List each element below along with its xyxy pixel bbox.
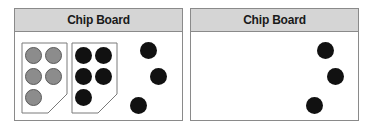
chip-board-panel-left: Chip Board bbox=[14, 8, 183, 121]
panel-title: Chip Board bbox=[243, 13, 306, 27]
black-chip bbox=[75, 89, 92, 106]
black-chip bbox=[75, 47, 92, 64]
gray-chip bbox=[45, 47, 62, 64]
black-chip bbox=[95, 68, 112, 85]
panel-title: Chip Board bbox=[67, 13, 130, 27]
loose-black-chip bbox=[327, 68, 344, 85]
chip-board-panel-right: Chip Board bbox=[190, 8, 359, 121]
panel-header: Chip Board bbox=[15, 9, 182, 32]
black-chip bbox=[75, 68, 92, 85]
loose-black-chip bbox=[306, 97, 323, 114]
loose-black-chip bbox=[150, 68, 167, 85]
loose-black-chip bbox=[130, 97, 147, 114]
gray-chip bbox=[25, 47, 42, 64]
gray-chip bbox=[25, 68, 42, 85]
gray-chip bbox=[25, 89, 42, 106]
gray-chip bbox=[45, 68, 62, 85]
loose-black-chip bbox=[140, 42, 157, 59]
loose-black-chip bbox=[317, 42, 334, 59]
black-chip bbox=[95, 47, 112, 64]
panel-header: Chip Board bbox=[191, 9, 358, 32]
